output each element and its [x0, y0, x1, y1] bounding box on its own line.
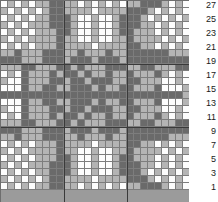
grid-cell[interactable] [120, 57, 127, 64]
grid-cell[interactable] [127, 162, 134, 169]
grid-cell[interactable] [134, 113, 141, 120]
grid-cell[interactable] [148, 92, 155, 99]
grid-cell[interactable] [8, 169, 15, 176]
grid-cell[interactable] [57, 85, 64, 92]
grid-cell[interactable] [127, 155, 134, 162]
grid-cell[interactable] [155, 50, 162, 57]
grid-cell[interactable] [106, 162, 113, 169]
grid-cell[interactable] [78, 22, 85, 29]
grid-cell[interactable] [99, 43, 106, 50]
grid-cell[interactable] [155, 29, 162, 36]
grid-cell[interactable] [162, 85, 169, 92]
grid-cell[interactable] [29, 71, 36, 78]
grid-cell[interactable] [141, 183, 148, 190]
grid-cell[interactable] [43, 1, 50, 8]
grid-cell[interactable] [22, 183, 29, 190]
grid-cell[interactable] [148, 99, 155, 106]
grid-cell[interactable] [134, 169, 141, 176]
grid-cell[interactable] [64, 169, 71, 176]
grid-cell[interactable] [78, 141, 85, 148]
grid-cell[interactable] [120, 155, 127, 162]
grid-cell[interactable] [162, 43, 169, 50]
grid-cell[interactable] [57, 92, 64, 99]
grid-cell[interactable] [8, 78, 15, 85]
grid-cell[interactable] [169, 113, 176, 120]
grid-cell[interactable] [43, 43, 50, 50]
grid-cell[interactable] [176, 134, 183, 141]
grid-cell[interactable] [120, 71, 127, 78]
grid-cell[interactable] [29, 29, 36, 36]
grid-cell[interactable] [162, 127, 169, 134]
grid-cell[interactable] [92, 183, 99, 190]
grid-cell[interactable] [106, 64, 113, 71]
grid-cell[interactable] [176, 57, 183, 64]
grid-cell[interactable] [113, 141, 120, 148]
grid-cell[interactable] [120, 85, 127, 92]
grid-cell[interactable] [15, 162, 22, 169]
grid-cell[interactable] [50, 43, 57, 50]
grid-cell[interactable] [29, 120, 36, 127]
grid-cell[interactable] [1, 134, 8, 141]
grid-cell[interactable] [162, 134, 169, 141]
grid-cell[interactable] [8, 85, 15, 92]
grid-cell[interactable] [43, 29, 50, 36]
grid-cell[interactable] [43, 50, 50, 57]
grid-cell[interactable] [29, 106, 36, 113]
grid-cell[interactable] [43, 169, 50, 176]
grid-cell[interactable] [92, 50, 99, 57]
grid-cell[interactable] [141, 176, 148, 183]
grid-cell[interactable] [50, 99, 57, 106]
grid-cell[interactable] [141, 15, 148, 22]
grid-cell[interactable] [169, 29, 176, 36]
grid-cell[interactable] [92, 169, 99, 176]
grid-cell[interactable] [127, 22, 134, 29]
grid-cell[interactable] [15, 22, 22, 29]
grid-cell[interactable] [127, 176, 134, 183]
grid-cell[interactable] [78, 1, 85, 8]
grid-cell[interactable] [120, 176, 127, 183]
grid-cell[interactable] [141, 50, 148, 57]
grid-cell[interactable] [22, 155, 29, 162]
grid-cell[interactable] [155, 176, 162, 183]
grid-cell[interactable] [22, 50, 29, 57]
grid-cell[interactable] [162, 106, 169, 113]
grid-cell[interactable] [127, 64, 134, 71]
grid-cell[interactable] [134, 106, 141, 113]
grid-cell[interactable] [71, 29, 78, 36]
grid-cell[interactable] [78, 120, 85, 127]
grid-cell[interactable] [141, 29, 148, 36]
grid-cell[interactable] [141, 120, 148, 127]
grid-cell[interactable] [120, 22, 127, 29]
grid-cell[interactable] [106, 8, 113, 15]
grid-cell[interactable] [127, 183, 134, 190]
grid-cell[interactable] [64, 141, 71, 148]
grid-cell[interactable] [148, 162, 155, 169]
grid-cell[interactable] [120, 183, 127, 190]
grid-cell[interactable] [92, 148, 99, 155]
grid-cell[interactable] [92, 22, 99, 29]
grid-cell[interactable] [106, 1, 113, 8]
grid-cell[interactable] [78, 169, 85, 176]
grid-cell[interactable] [127, 113, 134, 120]
grid-cell[interactable] [8, 99, 15, 106]
grid-cell[interactable] [106, 36, 113, 43]
grid-cell[interactable] [155, 92, 162, 99]
grid-cell[interactable] [71, 148, 78, 155]
grid-cell[interactable] [36, 120, 43, 127]
grid-cell[interactable] [22, 78, 29, 85]
grid-cell[interactable] [113, 15, 120, 22]
grid-cell[interactable] [148, 78, 155, 85]
grid-cell[interactable] [43, 85, 50, 92]
grid-cell[interactable] [99, 36, 106, 43]
grid-cell[interactable] [71, 8, 78, 15]
grid-cell[interactable] [169, 78, 176, 85]
grid-cell[interactable] [50, 127, 57, 134]
grid-cell[interactable] [92, 99, 99, 106]
grid-cell[interactable] [148, 113, 155, 120]
grid-cell[interactable] [78, 71, 85, 78]
grid-cell[interactable] [176, 162, 183, 169]
grid-cell[interactable] [155, 183, 162, 190]
grid-cell[interactable] [78, 15, 85, 22]
grid-cell[interactable] [127, 134, 134, 141]
grid-cell[interactable] [141, 127, 148, 134]
